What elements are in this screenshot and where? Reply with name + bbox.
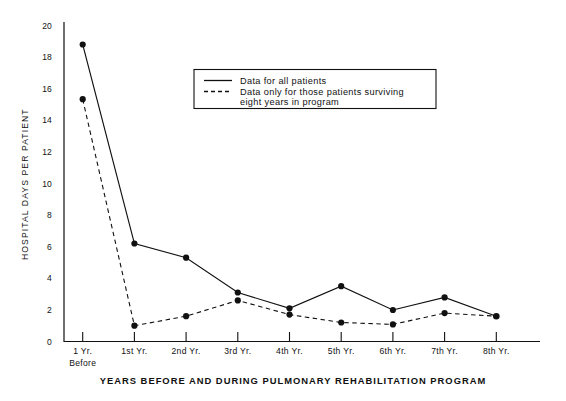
x-tick-label: 1 Yr. <box>73 346 92 356</box>
x-axis-title: YEARS BEFORE AND DURING PULMONARY REHABI… <box>100 375 487 386</box>
x-tick-label: 8th Yr. <box>483 346 510 356</box>
chart-figure: HOSPITAL DAYS PER PATIENT 20 18 16 14 12… <box>0 0 566 401</box>
y-tick-label: 0 <box>47 337 52 347</box>
series-survivors-line <box>83 99 497 326</box>
y-axis-title: HOSPITAL DAYS PER PATIENT <box>20 108 30 260</box>
legend-label-survivors: Data only for those patients surviving <box>240 87 404 97</box>
chart-legend: Data for all patients Data only for thos… <box>194 70 436 109</box>
y-tick-label: 18 <box>42 52 52 62</box>
x-tick-label: 3rd Yr. <box>224 346 251 356</box>
y-tick-label: 8 <box>47 210 52 220</box>
y-tick-label: 6 <box>47 242 52 252</box>
series-survivors-markers <box>80 96 448 329</box>
y-tick-label: 4 <box>47 273 52 283</box>
y-axis-tick-labels: 20 18 16 14 12 10 8 6 4 2 0 <box>42 21 52 347</box>
x-tick-label: 2nd Yr. <box>172 346 201 356</box>
x-tick-label: 4th Yr. <box>276 346 303 356</box>
legend-label-all-patients: Data for all patients <box>240 76 327 86</box>
y-tick-label: 2 <box>47 305 52 315</box>
y-tick-label: 12 <box>42 147 52 157</box>
y-tick-label: 10 <box>42 179 52 189</box>
x-tick-label: 6th Yr. <box>380 346 407 356</box>
y-tick-label: 20 <box>42 21 52 31</box>
x-axis-tick-labels: 1 Yr. Before 1st Yr. 2nd Yr. 3rd Yr. 4th… <box>69 346 510 368</box>
x-tick-label-sub: Before <box>69 358 96 368</box>
y-tick-label: 16 <box>42 84 52 94</box>
line-chart-svg: HOSPITAL DAYS PER PATIENT 20 18 16 14 12… <box>0 0 566 401</box>
x-tick-label: 5th Yr. <box>328 346 355 356</box>
y-tick-label: 14 <box>42 115 52 125</box>
legend-label-survivors-line2: eight years in program <box>240 97 339 107</box>
x-axis-ticks <box>83 332 497 342</box>
x-tick-label: 7th Yr. <box>431 346 458 356</box>
x-tick-label: 1st Yr. <box>121 346 147 356</box>
